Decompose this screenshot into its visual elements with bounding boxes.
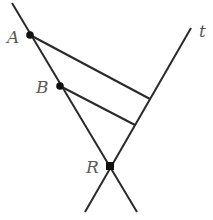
diagram-canvas: A B R t [0, 0, 213, 220]
line-t [85, 28, 191, 212]
label-a: A [5, 27, 19, 47]
label-r: R [85, 157, 99, 177]
label-t: t [199, 21, 206, 41]
point-b [56, 82, 64, 90]
point-r [106, 162, 114, 170]
label-b: B [35, 77, 49, 97]
segment-b-to-t [60, 86, 135, 125]
geometry-figure: A B R t [0, 0, 213, 220]
point-a [26, 31, 34, 39]
